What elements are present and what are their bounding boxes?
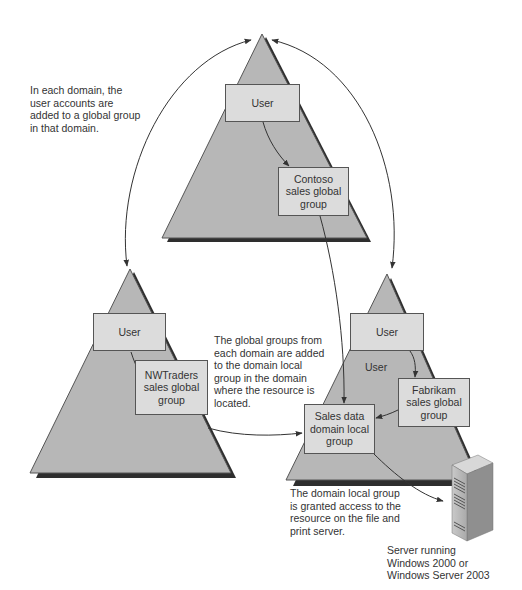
server-caption: Server running Windows 2000 or Windows S…: [387, 544, 517, 582]
contoso-global-group-box: Contoso sales global group: [278, 167, 349, 216]
contoso-user-box: User: [225, 84, 300, 122]
sales-data-domain-local-group-box: Sales data domain local group: [304, 404, 375, 454]
note-user-accounts: In each domain, the user accounts are ad…: [30, 84, 165, 134]
fabrikam-user-box: User: [350, 313, 424, 351]
note-global-groups: The global groups from each domain are a…: [214, 334, 344, 409]
fabrikam-global-group-box: Fabrikam sales global group: [398, 378, 470, 427]
arrow-nwtraders-to-sales-data: [208, 428, 302, 435]
server-tower-icon: [452, 455, 493, 541]
note-domain-local: The domain local group is granted access…: [290, 487, 440, 537]
nwtraders-global-group-box: NWTraders sales global group: [135, 360, 208, 415]
nwtraders-user-box: User: [93, 313, 166, 351]
fabrikam-extra-user-label: User: [365, 361, 387, 373]
